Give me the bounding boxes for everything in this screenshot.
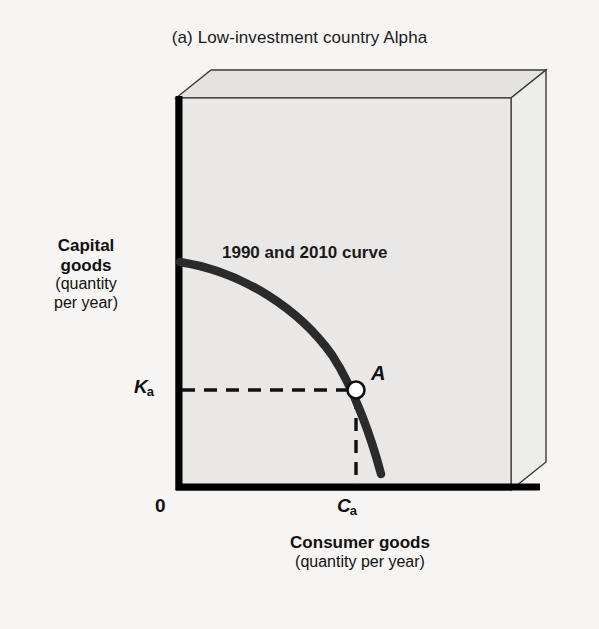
x-axis-subtitle-text: (quantity per year) — [175, 553, 545, 572]
plot-area-face — [176, 98, 511, 490]
ppf-figure-alpha: (a) Low-investment country Alpha 1990 an… — [0, 0, 599, 629]
point-a-marker — [348, 382, 365, 399]
x-axis-title-text: Consumer goods — [175, 533, 545, 553]
x-tick-subscript: a — [350, 503, 357, 518]
point-a-label: A — [371, 362, 385, 385]
x-tick-variable: C — [337, 495, 351, 516]
x-tick-label-ca: Ca — [337, 495, 357, 518]
y-axis-subtitle-line1: (quantity — [8, 275, 164, 294]
y-axis-subtitle-line2: per year) — [8, 294, 164, 313]
origin-label: 0 — [155, 495, 166, 517]
y-axis-title-line1: Capital — [8, 236, 164, 256]
x-axis-title: Consumer goods (quantity per year) — [175, 533, 545, 571]
box-right-face — [511, 70, 546, 490]
y-tick-subscript: a — [147, 384, 154, 399]
y-tick-label-ka: Ka — [134, 376, 154, 399]
box-top-face — [176, 70, 546, 98]
y-tick-variable: K — [134, 376, 148, 397]
y-axis-title: Capital goods (quantity per year) — [8, 236, 164, 313]
curve-label: 1990 and 2010 curve — [222, 243, 387, 263]
y-axis-title-line2: goods — [8, 256, 164, 276]
